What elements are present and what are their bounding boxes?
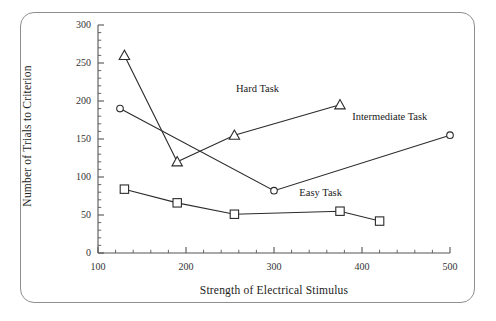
y-tick-label: 50 [61, 209, 91, 220]
data-point-marker [173, 199, 181, 207]
series-line [124, 55, 340, 161]
chart-plot-area [0, 0, 496, 321]
data-point-marker [120, 185, 128, 193]
data-point-marker [336, 207, 344, 215]
data-point-marker [271, 187, 278, 194]
y-tick-label: 250 [61, 57, 91, 68]
data-point-marker [375, 217, 383, 225]
series-easy-task [120, 185, 384, 225]
data-point-marker [335, 100, 345, 109]
data-point-marker [447, 132, 454, 139]
y-tick-label: 300 [61, 19, 91, 30]
x-tick-label: 400 [342, 261, 382, 272]
x-tick-label: 300 [254, 261, 294, 272]
series-label-intermediate-task: Intermediate Task [352, 111, 427, 122]
series-hard-task [119, 50, 345, 166]
series-label-easy-task: Easy Task [299, 187, 342, 198]
x-tick-label: 500 [430, 261, 470, 272]
x-axis-title: Strength of Electrical Stimulus [98, 284, 450, 296]
y-tick-label: 0 [61, 247, 91, 258]
x-tick-label: 100 [78, 261, 118, 272]
y-axis-title: Number of Trials to Criterion [21, 46, 33, 226]
y-tick-label: 200 [61, 95, 91, 106]
series-label-hard-task: Hard Task [236, 83, 279, 94]
data-point-marker [117, 105, 124, 112]
x-tick-label: 200 [166, 261, 206, 272]
data-point-marker [172, 157, 182, 166]
y-tick-label: 100 [61, 171, 91, 182]
figure-container: Number of Trials to Criterion Strength o… [0, 0, 496, 321]
data-point-marker [230, 210, 238, 218]
y-tick-label: 150 [61, 133, 91, 144]
data-point-marker [119, 50, 129, 59]
